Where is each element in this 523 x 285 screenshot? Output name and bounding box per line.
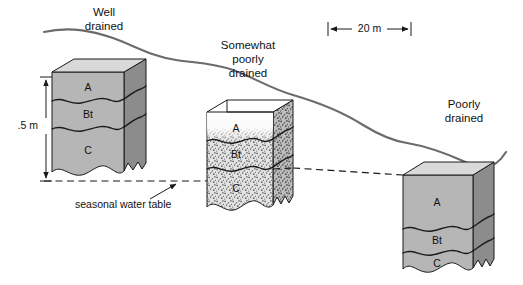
depth-scale-label: .5 m: [18, 119, 39, 131]
horizon-label-a: A: [84, 81, 91, 93]
well-drained-block: A Bt C: [52, 59, 146, 175]
poorly-drained-block: A Bt C: [403, 162, 494, 272]
drainage-label-well-drained: Well drained: [85, 6, 123, 32]
drainage-label-line-2: poorly: [232, 53, 264, 65]
drainage-label-line-1: Somewhat: [221, 39, 276, 51]
drainage-label-line-2: drained: [445, 112, 483, 124]
horizon-label-c: C: [84, 144, 92, 156]
drainage-label-poorly-drained: Poorly drained: [445, 98, 483, 124]
diagram-canvas: 20 m .5 m A Bt C: [0, 0, 523, 285]
horizon-label-c: C: [433, 257, 441, 269]
horizon-label-a: A: [232, 122, 239, 134]
horizon-label-a: A: [433, 196, 440, 208]
water-table-line-mid: [293, 168, 403, 175]
water-table-leader: [150, 184, 176, 199]
horizon-label-bt: Bt: [231, 148, 241, 160]
a-horizon-light-zone: [207, 112, 273, 141]
soil-drainage-figure: 20 m .5 m A Bt C: [0, 0, 523, 285]
block-side-face: [473, 162, 494, 268]
block-side-face: [124, 59, 146, 171]
drainage-label-somewhat-poorly-drained: Somewhat poorly drained: [221, 39, 276, 79]
water-table-label: seasonal water table: [75, 198, 171, 210]
horizon-label-bt: Bt: [432, 234, 442, 246]
block-side-face: [273, 100, 293, 205]
drainage-label-line-1: Poorly: [448, 98, 481, 110]
drainage-label-line-3: drained: [229, 67, 267, 79]
horizon-label-c: C: [232, 182, 240, 194]
horizon-label-bt: Bt: [83, 108, 93, 120]
drainage-label-line-1: Well: [93, 6, 115, 18]
scale-bar-label: 20 m: [358, 22, 382, 34]
somewhat-poorly-drained-block: A Bt C: [207, 100, 293, 210]
drainage-label-line-2: drained: [85, 20, 123, 32]
scale-bar: 20 m: [328, 22, 411, 36]
